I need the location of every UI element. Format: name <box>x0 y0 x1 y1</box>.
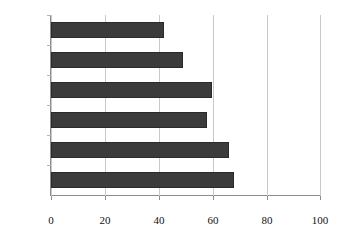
ytick-mark-4 <box>47 135 51 136</box>
xtick-label-0: 0 <box>31 214 71 226</box>
xtick-mark-100 <box>320 196 321 200</box>
gridline-60 <box>213 15 214 196</box>
ytick-mark-2 <box>47 75 51 76</box>
bar-chart: 18-29 30-39 40-49 50-59 60-69 70+ 0 20 4… <box>0 0 342 231</box>
xtick-mark-60 <box>213 196 214 200</box>
gridline-0 <box>51 15 52 196</box>
plot-area: 18-29 30-39 40-49 50-59 60-69 70+ 0 20 4… <box>50 15 320 196</box>
ytick-mark-5 <box>47 165 51 166</box>
gridline-40 <box>159 15 160 196</box>
bar-70plus <box>51 172 234 188</box>
bar-18-29 <box>51 22 164 38</box>
xtick-label-20: 20 <box>85 214 125 226</box>
xtick-label-60: 60 <box>193 214 233 226</box>
xtick-label-80: 80 <box>247 214 287 226</box>
bar-40-49 <box>51 82 212 98</box>
xtick-mark-40 <box>159 196 160 200</box>
xtick-mark-80 <box>267 196 268 200</box>
xtick-label-100: 100 <box>300 214 340 226</box>
bar-50-59 <box>51 112 207 128</box>
gridline-80 <box>267 15 268 196</box>
ytick-mark-1 <box>47 45 51 46</box>
gridline-100 <box>320 15 321 196</box>
xtick-label-40: 40 <box>139 214 179 226</box>
bar-30-39 <box>51 52 183 68</box>
bar-60-69 <box>51 142 229 158</box>
ytick-mark-0 <box>47 15 51 16</box>
gridline-20 <box>105 15 106 196</box>
xtick-mark-20 <box>105 196 106 200</box>
xtick-mark-0 <box>51 196 52 200</box>
ytick-mark-3 <box>47 105 51 106</box>
